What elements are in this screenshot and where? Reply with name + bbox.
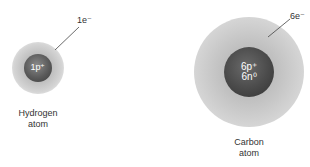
hydrogen-label-line1: Hydrogen xyxy=(10,108,66,119)
hydrogen-atom-label: Hydrogen atom xyxy=(10,108,66,130)
hydrogen-electron-leader xyxy=(55,27,79,50)
carbon-electron-leader xyxy=(268,19,290,37)
hydrogen-electron-label: 1e⁻ xyxy=(77,15,92,25)
carbon-label-line1: Carbon xyxy=(224,137,274,148)
hydrogen-label-line2: atom xyxy=(10,119,66,130)
carbon-electron-label: 6e⁻ xyxy=(290,11,305,21)
carbon-atom-label: Carbon atom xyxy=(224,137,274,159)
carbon-label-line2: atom xyxy=(224,148,274,159)
